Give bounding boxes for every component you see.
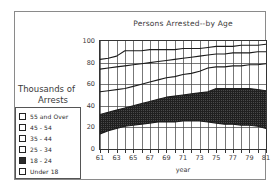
legend-item-label: 45 - 54 — [30, 124, 52, 131]
legend-item-label: 55 and Over — [30, 113, 68, 120]
x-axis-tick-mark — [225, 150, 226, 153]
empty-checkbox-icon[interactable] — [19, 168, 26, 175]
legend-item-label: Under 18 — [30, 168, 59, 175]
empty-checkbox-icon[interactable] — [19, 146, 26, 153]
legend-item[interactable]: 18 - 24 — [19, 155, 80, 166]
filled-checkbox-icon[interactable] — [19, 157, 26, 164]
x-axis-tick-mark — [175, 150, 176, 153]
legend-item[interactable]: 55 and Over — [19, 111, 80, 122]
x-axis-tick-mark — [183, 150, 184, 153]
y-tick-label: 0 — [73, 145, 95, 153]
x-tick-label: 73 — [193, 154, 207, 162]
empty-checkbox-icon[interactable] — [19, 124, 26, 131]
x-axis-tick-mark — [216, 150, 217, 153]
x-axis-tick-mark — [117, 150, 118, 153]
legend-item[interactable]: 45 - 54 — [19, 122, 80, 133]
x-axis-label: year — [99, 166, 267, 174]
legend-item[interactable]: Under 18 — [19, 166, 80, 177]
legend-item-label: 25 - 34 — [30, 146, 52, 153]
x-axis-tick-mark — [191, 150, 192, 153]
x-axis-tick-mark — [108, 150, 109, 153]
legend-item[interactable]: 25 - 34 — [19, 144, 80, 155]
plot-area — [99, 40, 267, 150]
y-tick-label: 60 — [73, 80, 95, 88]
x-axis-tick-mark — [133, 150, 134, 153]
x-tick-label: 69 — [159, 154, 173, 162]
x-axis-tick-mark — [100, 150, 101, 153]
x-tick-label: 67 — [143, 154, 157, 162]
x-tick-label: 79 — [242, 154, 256, 162]
x-axis-tick-mark — [200, 150, 201, 153]
legend-item-label: 35 - 44 — [30, 135, 52, 142]
x-tick-label: 65 — [126, 154, 140, 162]
legend-item-label: 18 - 24 — [30, 157, 52, 164]
x-tick-label: 71 — [176, 154, 190, 162]
empty-checkbox-icon[interactable] — [19, 135, 26, 142]
chart-screenshot: Persons Arrested--by Age Thousands of Ar… — [0, 0, 279, 192]
x-tick-label: 81 — [259, 154, 273, 162]
chart-title: Persons Arrested--by Age — [99, 19, 267, 28]
y-tick-label: 100 — [73, 37, 95, 45]
x-axis-tick-mark — [125, 150, 126, 153]
x-axis-tick-mark — [241, 150, 242, 153]
x-axis-tick-mark — [258, 150, 259, 153]
plot-frame — [99, 40, 267, 150]
x-tick-label: 63 — [110, 154, 124, 162]
y-tick-label: 20 — [73, 123, 95, 131]
y-tick-label: 40 — [73, 102, 95, 110]
x-axis-tick-mark — [142, 150, 143, 153]
x-axis-tick-mark — [166, 150, 167, 153]
x-axis-tick-mark — [249, 150, 250, 153]
empty-checkbox-icon[interactable] — [19, 113, 26, 120]
x-tick-label: 77 — [226, 154, 240, 162]
legend: 55 and Over45 - 5435 - 4425 - 3418 - 24U… — [15, 107, 81, 179]
legend-item[interactable]: 35 - 44 — [19, 133, 80, 144]
x-axis-tick-mark — [266, 150, 267, 153]
x-axis-tick-mark — [208, 150, 209, 153]
x-axis-tick-mark — [158, 150, 159, 153]
y-tick-label: 80 — [73, 59, 95, 67]
x-axis-tick-mark — [233, 150, 234, 153]
x-axis-tick-mark — [150, 150, 151, 153]
x-tick-label: 75 — [209, 154, 223, 162]
x-tick-label: 61 — [93, 154, 107, 162]
